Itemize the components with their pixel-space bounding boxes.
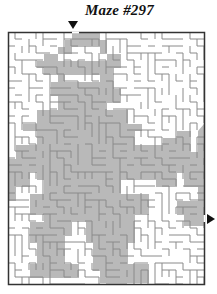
exit-arrow-icon — [207, 214, 215, 224]
maze-board[interactable] — [0, 0, 217, 294]
entry-arrow-icon — [68, 21, 78, 29]
